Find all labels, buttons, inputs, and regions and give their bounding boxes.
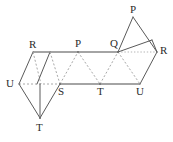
vertex-label-bottom-t: T [97,86,104,97]
vertex-dot-top-q [117,51,119,53]
edge-top-band-to-s-left [37,52,50,84]
vertex-label-top-q: Q [110,38,118,49]
edge-lower-t-to-s [40,84,60,118]
vertex-label-left-u: U [6,78,14,89]
vertex-dot-top-p [77,51,79,53]
vertex-label-apex-p: P [130,4,136,15]
edge-top-p-to-t-dashed [78,52,100,84]
vertex-label-lower-t: T [36,122,43,133]
edge-bottom-u-to-right-r [140,52,157,84]
vertex-label-top-r: R [29,39,36,50]
edge-left-u-to-lower-t [19,84,40,118]
vertex-dot-lower-t [39,117,41,119]
edge-top-r-to-left-u [19,52,33,84]
edge-top-band-to-s-dashed [50,52,60,84]
edge-top-q-to-flap-fold [118,40,152,52]
vertex-label-top-p: P [75,38,81,49]
edge-top-q-to-bottom-u-dashed [118,52,140,84]
edge-apex-p-to-right-r [133,17,157,52]
figure-container: R P Q P R U S T U T [0,0,173,142]
edge-t-to-top-q-dashed [100,52,118,84]
vertex-label-bottom-u: U [136,86,144,97]
edge-top-r-to-mid-dashed [33,52,41,84]
net-diagram-svg [0,0,173,142]
vertex-label-bottom-s: S [58,86,64,97]
vertex-label-right-r: R [160,45,167,56]
edge-top-q-to-apex-p [118,17,133,52]
edge-s-to-top-p-dashed [60,52,78,84]
